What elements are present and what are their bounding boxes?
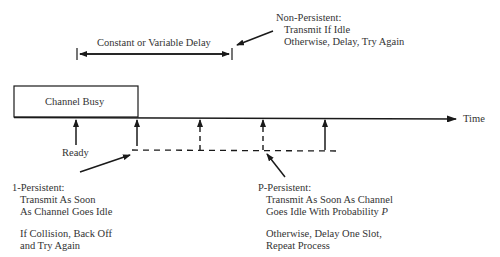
p-persistent-line-text: Goes Idle With Probability: [266, 206, 381, 217]
delay-label: Constant or Variable Delay: [97, 37, 211, 49]
time-axis-arrow: [14, 118, 456, 120]
one-persistent-line: As Channel Goes Idle: [12, 206, 112, 218]
non-persistent-heading: Non-Persistent:: [276, 12, 404, 24]
p-persistent-line: Repeat Process: [258, 240, 393, 252]
one-persistent-line: and Try Again: [12, 240, 112, 252]
probability-variable: P: [381, 206, 387, 217]
delay-span-arrow: [77, 48, 232, 60]
one-persistent-note: 1-Persistent: Transmit As Soon As Channe…: [12, 182, 112, 252]
one-persistent-line: Transmit As Soon: [12, 194, 112, 206]
time-label: Time: [463, 113, 485, 125]
non-persistent-line: Transmit If Idle: [276, 24, 404, 36]
p-persistent-pointer-arrow: [267, 154, 285, 177]
p-persistent-heading: P-Persistent:: [258, 182, 393, 194]
one-persistent-heading: 1-Persistent:: [12, 182, 112, 194]
non-persistent-note: Non-Persistent: Transmit If Idle Otherwi…: [276, 12, 404, 48]
ready-label: Ready: [62, 147, 89, 159]
p-persistent-line: Otherwise, Delay One Slot,: [258, 228, 393, 240]
p-persistent-line: Transmit As Soon As Channel: [258, 194, 393, 206]
p-persistent-note: P-Persistent: Transmit As Soon As Channe…: [258, 182, 393, 252]
channel-busy-label: Channel Busy: [45, 96, 104, 108]
non-persistent-line: Otherwise, Delay, Try Again: [276, 36, 404, 48]
one-persistent-line: If Collision, Back Off: [12, 228, 112, 240]
slot-baseline-dashed: [132, 150, 340, 151]
p-persistent-line-probability: Goes Idle With Probability P: [258, 206, 393, 218]
non-persistent-pointer-arrow: [237, 31, 273, 45]
